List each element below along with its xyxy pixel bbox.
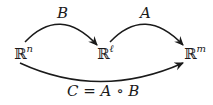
node-Rl-base: ℝ [97,45,109,63]
arrow-C [20,63,183,82]
node-Rm-exponent: m [196,43,205,54]
arrow-A [110,24,183,45]
node-Rl-exponent: ℓ [109,43,113,54]
node-Rm: ℝm [184,45,206,62]
edge-label-C: C = A ∘ B [67,84,139,99]
arrow-B [25,24,97,45]
node-Rn: ℝn [14,45,33,62]
edge-label-B: B [57,6,68,21]
node-Rm-base: ℝ [184,45,196,63]
edge-label-A: A [140,6,151,21]
commutative-diagram: ℝn ℝℓ ℝm B A C = A ∘ B [0,0,213,105]
node-Rn-exponent: n [26,43,32,54]
node-Rl: ℝℓ [97,45,114,62]
node-Rn-base: ℝ [14,45,26,63]
